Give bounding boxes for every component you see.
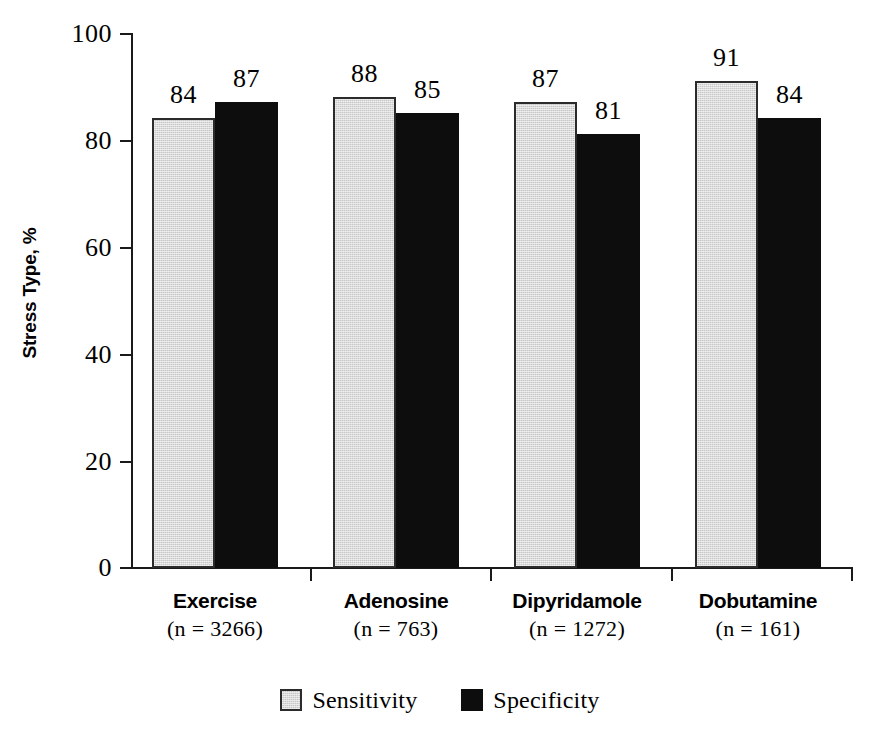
y-tick-label-40: 40 xyxy=(52,342,112,368)
y-axis-title: Stress Type, % xyxy=(19,203,41,383)
y-tick-0 xyxy=(120,567,131,569)
category-n-adenosine: (n = 763) xyxy=(306,614,486,644)
bar-sensitivity-dipyridamole xyxy=(514,102,577,568)
category-group-dobutamine: Dobutamine (n = 161) xyxy=(668,588,848,644)
bar-sensitivity-dobutamine xyxy=(695,81,758,568)
bar-chart: Stress Type, % 100 80 60 40 20 0 84 87 E… xyxy=(0,0,880,745)
bar-value-sensitivity-dipyridamole: 87 xyxy=(505,66,586,92)
category-group-dipyridamole: Dipyridamole (n = 1272) xyxy=(487,588,667,644)
gray-swatch-icon xyxy=(280,689,302,711)
category-group-exercise: Exercise (n = 3266) xyxy=(125,588,305,644)
bar-specificity-dipyridamole xyxy=(577,134,640,568)
y-tick-40 xyxy=(120,354,131,356)
bar-value-specificity-dobutamine: 84 xyxy=(749,82,830,108)
y-tick-label-100: 100 xyxy=(52,21,112,47)
bar-value-sensitivity-dobutamine: 91 xyxy=(686,45,767,71)
category-label-dobutamine: Dobutamine xyxy=(668,588,848,614)
bar-specificity-adenosine xyxy=(396,113,459,568)
y-tick-80 xyxy=(120,140,131,142)
y-tick-20 xyxy=(120,461,131,463)
bar-sensitivity-exercise xyxy=(152,118,215,568)
category-n-dipyridamole: (n = 1272) xyxy=(487,614,667,644)
chart-legend: Sensitivity Specificity xyxy=(0,688,880,712)
bar-specificity-exercise xyxy=(215,102,278,568)
bar-value-specificity-exercise: 87 xyxy=(206,66,287,92)
bar-sensitivity-adenosine xyxy=(333,97,396,568)
x-tick-3 xyxy=(671,569,673,581)
category-label-adenosine: Adenosine xyxy=(306,588,486,614)
legend-label-sensitivity: Sensitivity xyxy=(312,688,417,712)
x-tick-2 xyxy=(490,569,492,581)
category-group-adenosine: Adenosine (n = 763) xyxy=(306,588,486,644)
category-label-exercise: Exercise xyxy=(125,588,305,614)
y-tick-label-0: 0 xyxy=(52,555,112,581)
legend-item-specificity: Specificity xyxy=(461,688,599,712)
y-tick-label-80: 80 xyxy=(52,128,112,154)
bar-specificity-dobutamine xyxy=(758,118,821,568)
y-tick-label-60: 60 xyxy=(52,235,112,261)
x-tick-4 xyxy=(851,569,853,581)
legend-item-sensitivity: Sensitivity xyxy=(280,688,417,712)
bar-value-specificity-adenosine: 85 xyxy=(387,77,468,103)
black-swatch-icon xyxy=(461,689,483,711)
y-tick-label-20: 20 xyxy=(52,449,112,475)
category-label-dipyridamole: Dipyridamole xyxy=(487,588,667,614)
bar-value-specificity-dipyridamole: 81 xyxy=(568,98,649,124)
y-tick-100 xyxy=(120,33,131,35)
y-axis-line xyxy=(131,33,133,569)
category-n-exercise: (n = 3266) xyxy=(125,614,305,644)
legend-label-specificity: Specificity xyxy=(493,688,599,712)
category-n-dobutamine: (n = 161) xyxy=(668,614,848,644)
x-tick-1 xyxy=(310,569,312,581)
y-tick-60 xyxy=(120,247,131,249)
